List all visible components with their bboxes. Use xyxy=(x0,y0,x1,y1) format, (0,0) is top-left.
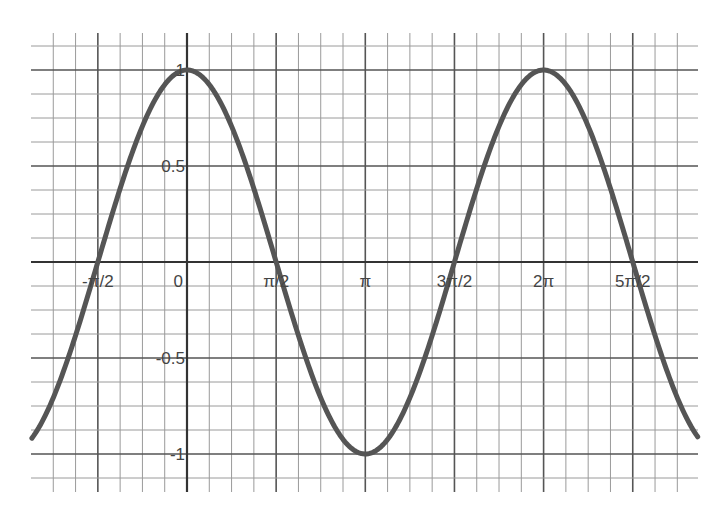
x-tick-label: π xyxy=(359,272,371,291)
x-tick-label: π/2 xyxy=(263,272,289,291)
x-tick-label: -π/2 xyxy=(82,272,114,291)
y-tick-label: -1 xyxy=(170,445,185,464)
x-tick-label: 2π xyxy=(533,272,554,291)
x-tick-labels: -π/2 0 π/2 π 3π/2 2π 5π/2 xyxy=(82,272,650,291)
y-tick-label: -0.5 xyxy=(156,349,185,368)
cosine-chart: -π/2 0 π/2 π 3π/2 2π 5π/2 1 0.5 -0.5 -1 xyxy=(0,0,726,506)
y-tick-label: 1 xyxy=(176,61,185,80)
x-tick-label: 0 xyxy=(174,272,183,291)
y-tick-label: 0.5 xyxy=(161,157,185,176)
x-tick-label: 3π/2 xyxy=(437,272,472,291)
x-tick-label: 5π/2 xyxy=(615,272,650,291)
